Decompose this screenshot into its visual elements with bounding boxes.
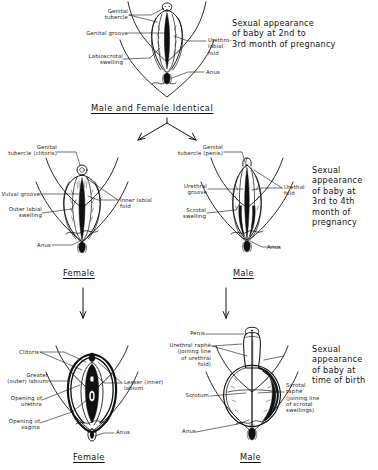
label-anus-male-stage2: Anus (250, 244, 281, 250)
stage-caption-3: Sexual appearance of baby at time of bir… (312, 344, 376, 386)
panel-male-stage2-drawing (201, 152, 293, 252)
divider-identical-label: Male and Female Identical (91, 103, 213, 113)
label-anus-female-stage2: Anus (20, 242, 51, 248)
label-scrotal-swelling: Scrotal swelling (168, 207, 206, 220)
label-genital-groove: Genital groove (48, 30, 128, 36)
sex-label-female-stage2: Female (63, 268, 95, 278)
label-opening-of-urethra: Opening of urethra (0, 395, 42, 408)
label-urethral-fold: Urethal fold (284, 184, 324, 197)
panel-female-stage2-drawing (36, 152, 128, 253)
label-anus-female-stage3: Anus (116, 429, 146, 435)
sex-label-female-stage3: Female (73, 452, 105, 462)
label-genital-tubercle-penis: Genital tubercle (penis) (167, 144, 223, 157)
label-urethro-labial-fold: Urethro- labial fold (208, 37, 254, 56)
label-anus-male-stage3: Anus (166, 428, 196, 434)
label-genital-tubercle-clitoris: Genital tubercle (clitoris) (0, 144, 57, 157)
label-urethral-raphe: Urethral raphé (joining line of urethral… (166, 342, 211, 367)
label-greater-outer-labium: Greater (outer) labium (0, 372, 48, 385)
label-anus-indifferent: Anus (206, 69, 240, 75)
label-opening-of-vagina: Opening of vagina (0, 418, 40, 431)
label-lesser-inner-labium: Lesser (inner) labium (124, 379, 172, 392)
panel-male-stage3-drawing (196, 327, 298, 440)
label-scrotum: Scrotum (176, 392, 209, 398)
label-inner-labial-fold: Inner labial fold (120, 197, 164, 210)
branch-arrows (138, 118, 196, 140)
panel-female-stage3-drawing (40, 346, 138, 441)
stage-arrows (80, 288, 229, 318)
label-genital-tubercle: Genital tubercle (58, 8, 128, 21)
label-outer-labial-swelling: Outer labial swelling (0, 206, 42, 219)
label-clitoris: Clitoris (4, 349, 39, 355)
label-vulval-groove: Vulval groove (0, 191, 40, 197)
label-labioscrotal-swelling: Labioscrotal swelling (53, 53, 123, 66)
panel-indifferent-drawing (120, 2, 214, 97)
sex-label-male-stage3: Male (240, 452, 261, 462)
label-penis: Penis (176, 330, 205, 336)
sex-label-male-stage2: Male (233, 268, 254, 278)
label-scrotal-raphe: Scrotal raphé (joining line of scrotal s… (286, 382, 338, 413)
label-urethral-groove: Urethral groove (168, 183, 207, 196)
figure-canvas: Sexual appearance of baby at 2nd to 3rd … (0, 0, 378, 470)
